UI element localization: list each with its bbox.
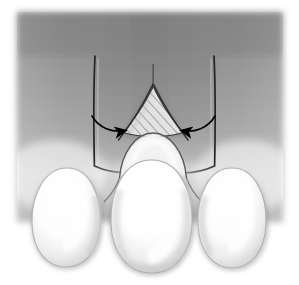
illustration-stage (0, 0, 299, 285)
socket-wall-right-highlight (211, 58, 212, 166)
dental-illustration (0, 0, 299, 285)
tooth-crown-left (31, 168, 103, 270)
socket-wall-left-highlight (98, 58, 99, 166)
tooth-crowns (31, 160, 269, 276)
